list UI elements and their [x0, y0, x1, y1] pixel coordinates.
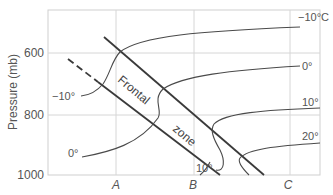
isotherm-20: [239, 143, 320, 175]
x-tick-c: C: [284, 178, 293, 192]
y-tick-800: 800: [24, 108, 44, 122]
isotherm-label-0-left: 0°: [68, 147, 79, 159]
frontal-label: Frontal: [115, 73, 153, 108]
isotherm-label-minus10c: −10°C: [298, 11, 329, 23]
isotherm-label-minus10-left: −10°: [52, 90, 75, 102]
isotherm-label-0-right: 0°: [302, 60, 313, 72]
isotherm-label-10-right: 10°: [302, 96, 319, 108]
isotherm-minus10: [81, 27, 300, 96]
frontal-zone-diagram: 600 800 1000 Pressure (mb) A B C −10°C 0…: [0, 0, 333, 195]
isotherm-label-10-bottom: 10°: [196, 162, 213, 174]
x-tick-b: B: [189, 178, 197, 192]
y-axis-label: Pressure (mb): [6, 54, 20, 130]
lower-front-boundary-dashed: [68, 59, 98, 82]
zone-label: zone: [170, 122, 199, 150]
x-tick-a: A: [111, 178, 120, 192]
isotherm-label-20-right: 20°: [302, 130, 319, 142]
y-tick-1000: 1000: [17, 168, 44, 182]
y-tick-600: 600: [24, 46, 44, 60]
